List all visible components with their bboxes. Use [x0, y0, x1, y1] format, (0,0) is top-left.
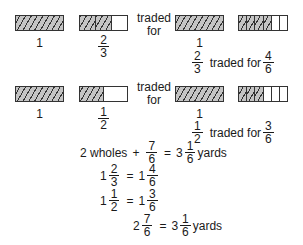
equals-sign: =: [126, 194, 133, 208]
whole-number: 1: [100, 194, 107, 208]
shaded-cell: [239, 16, 246, 30]
shaded-cell: [16, 16, 63, 30]
shaded-cell: [246, 16, 254, 30]
denominator: 2: [109, 201, 120, 213]
denominator: 6: [142, 226, 153, 238]
whole-bar-row1-right: [175, 15, 224, 31]
traded-for-text: traded for: [134, 12, 174, 38]
empty-cell: [271, 87, 279, 101]
trade-caption-row1: 23 traded for 46: [190, 50, 276, 75]
empty-cell: [279, 16, 287, 30]
shaded-cell: [80, 87, 103, 101]
plus-sign: +: [132, 146, 139, 160]
equals-sign: =: [126, 169, 133, 183]
shaded-cell: [95, 16, 111, 30]
equation-sum: 2 76 = 3 16 yards: [133, 213, 222, 238]
whole-number: 1: [138, 169, 145, 183]
caption-text: traded for: [210, 126, 261, 140]
empty-cell: [279, 87, 287, 101]
whole-number: 2: [133, 219, 140, 233]
shaded-cell: [176, 87, 223, 101]
denominator: 3: [98, 47, 109, 59]
for-word: for: [134, 25, 174, 38]
equals-sign: =: [164, 146, 171, 160]
empty-cell: [103, 87, 127, 101]
equation-one-half: 1 12 = 1 36: [100, 188, 160, 213]
shaded-cell: [176, 16, 223, 30]
denominator: 6: [180, 226, 191, 238]
unit-text: yards: [193, 219, 222, 233]
equals-sign: =: [159, 219, 166, 233]
denominator: 6: [263, 63, 274, 75]
two-thirds-bar: [79, 15, 128, 31]
denominator: 6: [263, 133, 274, 145]
whole-label: 1: [15, 37, 64, 50]
traded-for-text: traded for: [134, 81, 174, 107]
four-sixths-bar: [238, 15, 288, 31]
denominator: 6: [185, 153, 196, 165]
empty-cell: [263, 87, 271, 101]
equation-two-thirds: 1 23 = 1 46: [100, 163, 160, 188]
denominator: 3: [192, 63, 203, 75]
fraction-label: 12: [79, 106, 128, 131]
one-half-bar: [79, 86, 128, 102]
whole-number: 1: [138, 194, 145, 208]
empty-cell: [111, 16, 127, 30]
shaded-cell: [80, 16, 95, 30]
whole-bar-row2-right: [175, 86, 224, 102]
whole-number: 1: [100, 169, 107, 183]
fraction-label: 23: [79, 34, 128, 59]
unit-text: yards: [197, 146, 226, 160]
whole-number: 3: [171, 219, 178, 233]
whole-label: 1: [15, 108, 64, 121]
shaded-cell: [246, 87, 254, 101]
denominator: 2: [98, 119, 109, 131]
shaded-cell: [254, 87, 262, 101]
wholes-text: 2 wholes: [80, 146, 127, 160]
shaded-cell: [254, 16, 262, 30]
caption-text: traded for: [210, 56, 261, 70]
shaded-cell: [263, 16, 271, 30]
whole-number: 3: [176, 146, 183, 160]
whole-bar-row2-left: [15, 86, 64, 102]
for-word: for: [134, 94, 174, 107]
shaded-cell: [239, 87, 246, 101]
empty-cell: [271, 16, 279, 30]
three-sixths-bar: [238, 86, 288, 102]
whole-bar-row1-left: [15, 15, 64, 31]
shaded-cell: [16, 87, 63, 101]
